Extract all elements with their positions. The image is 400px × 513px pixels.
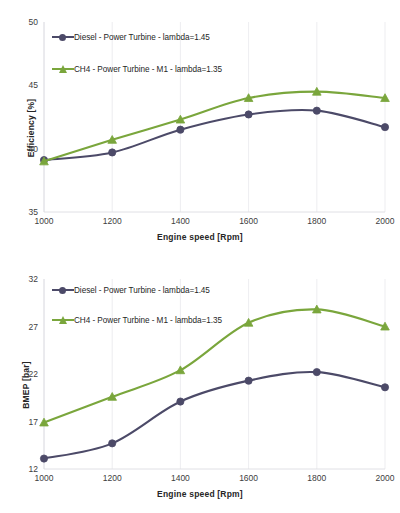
x-axis-title-efficiency: Engine speed [Rpm] <box>0 232 400 242</box>
series-line <box>44 110 385 160</box>
x-axis-tick-label: 1000 <box>21 473 67 483</box>
x-axis-tick-label: 1200 <box>89 216 135 226</box>
legend-item[interactable]: Diesel - Power Turbine - lambda=1.45 <box>52 285 210 295</box>
x-axis-tick-label: 1600 <box>226 216 272 226</box>
series-line <box>44 372 385 459</box>
x-axis-tick-label: 1400 <box>157 473 203 483</box>
y-axis-tick-label: 32 <box>10 274 38 284</box>
series-ch4 <box>40 87 390 164</box>
chart-panel-bmep: BMEP [bar] 12172227321000120014001600180… <box>0 257 400 513</box>
data-point-marker-circle <box>40 455 47 462</box>
data-point-marker-circle <box>245 111 252 118</box>
y-axis-tick-label: 40 <box>10 144 38 154</box>
legend-label: CH4 - Power Turbine - M1 - lambda=1.35 <box>74 65 222 74</box>
data-point-marker-circle <box>177 398 184 405</box>
series-line <box>44 92 385 162</box>
y-axis-tick-label: 45 <box>10 80 38 90</box>
x-axis-tick-label: 1600 <box>226 473 272 483</box>
axis-lines <box>44 22 385 212</box>
y-axis-tick-label: 17 <box>10 417 38 427</box>
legend-marker-circle-icon <box>52 285 74 295</box>
data-point-marker-circle <box>313 107 320 114</box>
y-axis-tick-label: 27 <box>10 322 38 332</box>
x-axis-tick-label: 1000 <box>21 216 67 226</box>
data-point-marker-circle <box>177 126 184 133</box>
x-axis-tick-label: 1200 <box>89 473 135 483</box>
x-axis-tick-label: 1800 <box>294 473 340 483</box>
plot-area-bmep: 1217222732100012001400160018002000Diesel… <box>0 257 400 513</box>
data-point-marker-circle <box>381 384 388 391</box>
x-axis-title-bmep: Engine speed [Rpm] <box>0 489 400 499</box>
chart-panel-efficiency: Efficiency [%] 3540455010001200140016001… <box>0 0 400 256</box>
series-line <box>44 309 385 422</box>
data-point-marker-triangle <box>176 366 185 374</box>
legend-label: Diesel - Power Turbine - lambda=1.45 <box>74 286 210 295</box>
series-diesel <box>40 107 388 164</box>
y-axis-tick-label: 22 <box>10 369 38 379</box>
series-diesel <box>40 369 388 463</box>
legend-item[interactable]: Diesel - Power Turbine - lambda=1.45 <box>52 32 210 42</box>
x-axis-tick-label: 1400 <box>157 216 203 226</box>
legend-label: Diesel - Power Turbine - lambda=1.45 <box>74 33 210 42</box>
legend-marker-circle-icon <box>52 32 74 42</box>
legend-item[interactable]: CH4 - Power Turbine - M1 - lambda=1.35 <box>52 64 222 74</box>
figure-two-panel-line-charts: Efficiency [%] 3540455010001200140016001… <box>0 0 400 513</box>
plot-area-efficiency: 35404550100012001400160018002000Diesel -… <box>0 0 400 256</box>
legend-marker-triangle-icon <box>52 64 74 74</box>
gridlines <box>44 22 385 212</box>
data-point-marker-circle <box>109 440 116 447</box>
legend-marker-triangle-icon <box>52 315 74 325</box>
data-point-marker-circle <box>109 149 116 156</box>
data-point-marker-circle <box>313 369 320 376</box>
x-axis-tick-label: 1800 <box>294 216 340 226</box>
legend-label: CH4 - Power Turbine - M1 - lambda=1.35 <box>74 316 222 325</box>
legend-item[interactable]: CH4 - Power Turbine - M1 - lambda=1.35 <box>52 315 222 325</box>
data-point-marker-circle <box>381 124 388 131</box>
y-axis-tick-label: 50 <box>10 17 38 27</box>
data-point-marker-circle <box>245 377 252 384</box>
x-axis-tick-label: 2000 <box>362 473 400 483</box>
x-axis-tick-label: 2000 <box>362 216 400 226</box>
